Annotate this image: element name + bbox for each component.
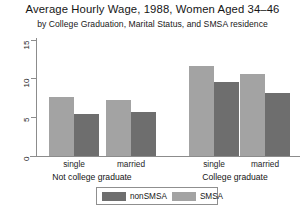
x-label-college-married: married — [230, 159, 300, 169]
chart-figure: Average Hourly Wage, 1988, Women Aged 34… — [0, 0, 305, 207]
bar-smsa-college-single[interactable] — [189, 66, 214, 157]
bar-nonsmsa-college-single[interactable] — [214, 82, 239, 156]
legend-swatch-smsa — [172, 192, 196, 201]
legend-label-nonsmsa: nonSMSA — [130, 192, 167, 201]
legend-label-smsa: SMSA — [200, 192, 223, 201]
legend-swatch-nonsmsa — [102, 192, 126, 201]
legend-item-nonsmsa[interactable]: nonSMSA — [97, 188, 167, 204]
bar-smsa-notcollege-married[interactable] — [106, 100, 131, 156]
group-label-college-graduate: College graduate — [170, 172, 300, 182]
legend-item-smsa[interactable]: SMSA — [167, 188, 223, 204]
bar-nonsmsa-notcollege-married[interactable] — [131, 112, 156, 156]
bar-nonsmsa-college-married[interactable] — [265, 93, 290, 156]
group-label-not-college-graduate: Not college graduate — [27, 172, 157, 182]
bar-smsa-notcollege-single[interactable] — [49, 97, 74, 157]
bar-nonsmsa-notcollege-single[interactable] — [74, 114, 99, 156]
chart-legend: nonSMSA SMSA — [96, 187, 218, 205]
bar-smsa-college-married[interactable] — [240, 74, 265, 156]
x-label-notcollege-married: married — [96, 159, 166, 169]
